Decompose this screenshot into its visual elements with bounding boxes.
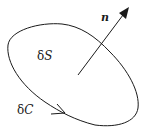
normal-arrowhead-icon (119, 7, 129, 19)
surface-label: δS (37, 49, 52, 63)
normal-label: n (101, 11, 109, 24)
boundary-label: δC (17, 103, 33, 117)
surface-diagram: n δS δC (0, 0, 146, 129)
